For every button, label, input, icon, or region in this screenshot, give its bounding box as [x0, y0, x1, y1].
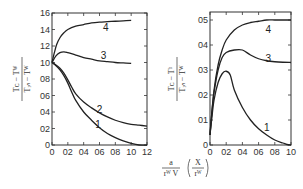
plot-frame [210, 12, 291, 145]
curve-label-4: 4 [266, 24, 272, 35]
xlabel-paren-numerator: X [195, 158, 201, 167]
x-tick-label: 02 [221, 147, 231, 157]
x-tick-label: 0 [207, 147, 212, 157]
y-tick-label: 02 [198, 90, 208, 100]
curve-4 [210, 20, 291, 135]
y-tick-label: 0 [203, 140, 208, 150]
x-tick-label: 0 [49, 147, 54, 157]
x-tick-label: 06 [94, 147, 104, 157]
x-tick-label: 04 [79, 147, 89, 157]
x-tick-label: 06 [254, 147, 264, 157]
y-tick-label: 0 [45, 140, 50, 150]
curve-label-1: 1 [264, 122, 270, 133]
y-tick-label: 12 [40, 41, 50, 51]
chart-canvas: 0020406081012002040608101214164321 00204… [0, 0, 303, 189]
curve-3 [52, 52, 131, 64]
curve-2 [52, 63, 147, 127]
left-paren [188, 159, 190, 177]
right-ylabel-numerator: Tᴄ − Tᵇ [167, 66, 176, 91]
curve-4 [52, 20, 131, 62]
y-tick-label: 02 [40, 124, 50, 134]
right-chart: 0020406081000102030405431 [198, 12, 296, 157]
curve-label-4: 4 [103, 22, 109, 33]
x-tick-label: 08 [110, 147, 120, 157]
y-tick-label: 06 [40, 91, 50, 101]
x-tick-label: 12 [142, 147, 152, 157]
x-tick-label: 08 [270, 147, 280, 157]
y-tick-label: 14 [40, 25, 50, 35]
y-tick-label: 04 [40, 107, 50, 117]
left-ylabel-denominator: Tᵢₙ − Tᵂ [23, 65, 32, 92]
left-ylabel-numerator: Tᴄ − Tᵂ [12, 65, 21, 92]
right-paren [206, 159, 208, 177]
curve-label-1: 1 [95, 119, 101, 130]
x-axis-label: a rᵂ V X rᵂ [162, 158, 208, 178]
curve-label-2: 2 [97, 104, 103, 115]
curve-label-3: 3 [101, 50, 107, 61]
right-y-axis-label: Tᴄ − Tᵇ Tᵢₙ − Tᵂ [167, 57, 187, 101]
left-chart: 0020406081012002040608101214164321 [40, 8, 152, 157]
y-tick-label: 10 [40, 58, 50, 68]
xlabel-paren-denominator: rᵂ [194, 169, 202, 178]
x-tick-label: 04 [237, 147, 247, 157]
x-tick-label: 02 [63, 147, 73, 157]
xlabel-fraction-numerator: a [169, 158, 173, 167]
right-ylabel-denominator: Tᵢₙ − Tᵂ [178, 65, 187, 92]
curve-1 [210, 71, 291, 145]
y-tick-label: 05 [198, 15, 208, 25]
left-y-axis-label: Tᴄ − Tᵂ Tᵢₙ − Tᵂ [12, 57, 32, 101]
y-tick-label: 08 [40, 74, 50, 84]
curve-label-3: 3 [266, 53, 272, 64]
y-tick-label: 04 [198, 40, 208, 50]
y-tick-label: 01 [198, 115, 208, 125]
y-tick-label: 03 [198, 65, 208, 75]
x-tick-label: 10 [286, 147, 296, 157]
y-tick-label: 16 [40, 8, 50, 18]
curve-3 [210, 50, 291, 135]
xlabel-fraction-denominator: rᵂ V [164, 169, 179, 178]
x-tick-label: 10 [126, 147, 136, 157]
